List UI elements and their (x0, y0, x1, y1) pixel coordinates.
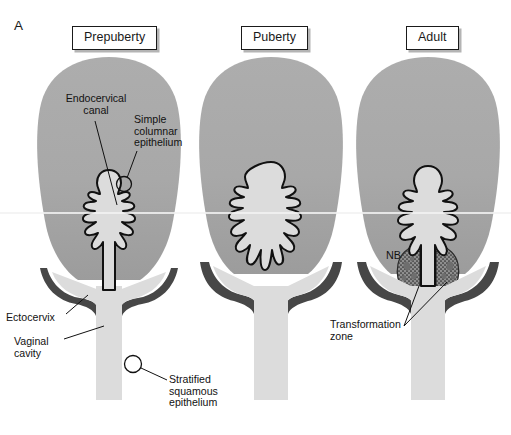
leader-stratified-squamous (141, 368, 167, 380)
figure-panel-a: A Prepuberty Puberty Adult Endocervical … (0, 0, 511, 435)
annotation-endocervical-canal: Endocervical canal (48, 93, 144, 116)
vaginal-cavity-puberty (254, 286, 288, 400)
panel-title-puberty: Puberty (241, 26, 308, 50)
panel-puberty-figure (199, 57, 343, 400)
anatomy-illustration (0, 0, 511, 435)
panel-title-adult: Adult (406, 26, 459, 50)
figure-letter: A (14, 18, 23, 33)
panel-title-prepuberty: Prepuberty (72, 26, 157, 50)
vaginal-cavity-prepuberty (96, 286, 122, 400)
annotation-transformation-zone: Transformation zone (330, 319, 401, 342)
annotation-simple-columnar-epithelium: Simple columnar epithelium (134, 114, 182, 149)
squamous-epithelium-circle (125, 356, 142, 373)
annotation-ectocervix: Ectocervix (6, 312, 55, 324)
annotation-nb: NB (386, 250, 401, 262)
annotation-stratified-squamous-epithelium: Stratified squamous epithelium (169, 374, 218, 409)
vaginal-cavity-adult (411, 286, 445, 400)
annotation-vaginal-cavity: Vaginal cavity (14, 336, 49, 359)
panel-adult-figure (356, 57, 500, 400)
scanline-artifact (0, 212, 511, 214)
